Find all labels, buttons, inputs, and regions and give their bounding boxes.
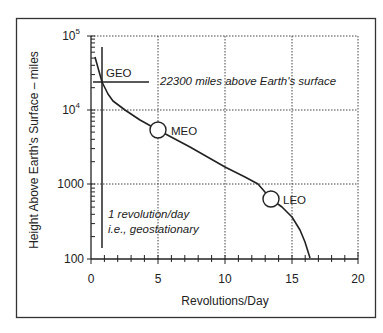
geo-note: 22300 miles above Earth's surface <box>159 75 336 87</box>
rev-note-line1: 1 revolution/day <box>108 208 190 220</box>
meo-marker <box>150 122 166 138</box>
y-tick-label-100: 100 <box>64 252 84 266</box>
leo-marker <box>263 191 279 207</box>
chart-frame <box>17 19 376 318</box>
x-tick-label-0: 0 <box>88 272 95 286</box>
y-tick-label-1000: 1000 <box>57 177 84 191</box>
x-tick-label-20: 20 <box>351 272 365 286</box>
rev-note-line2: i.e., geostationary <box>108 223 200 235</box>
x-axis-title: Revolutions/Day <box>181 294 268 308</box>
y-axis-title: Height Above Earth's Surface – miles <box>27 51 41 249</box>
meo-label: MEO <box>171 125 197 137</box>
geo-label: GEO <box>106 67 132 79</box>
x-tick-label-15: 15 <box>285 272 299 286</box>
x-tick-label-5: 5 <box>155 272 162 286</box>
y-tick-label-1e4: 104 <box>62 101 80 117</box>
orbit-height-chart: 105 104 1000 100 0 5 10 15 20 Revolution… <box>0 0 383 333</box>
x-tick-label-10: 10 <box>218 272 232 286</box>
x-ticks <box>91 252 358 264</box>
y-tick-label-1e5: 105 <box>62 27 80 43</box>
leo-label: LEO <box>283 194 306 206</box>
